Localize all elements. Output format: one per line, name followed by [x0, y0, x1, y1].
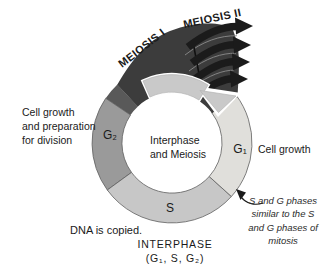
meiosis-arrow-head: [233, 37, 251, 54]
caption-dna-copied: DNA is copied.: [70, 224, 142, 236]
note-text-line4: mitosis: [268, 235, 298, 246]
g1-phase-label: G₁: [233, 142, 246, 156]
center-label-line2: and Meiosis: [150, 148, 206, 160]
g2-phase-label: G₂: [103, 128, 117, 142]
note-text-line3: and G phases of: [248, 222, 319, 233]
caption-interphase-title: INTERPHASE: [137, 238, 212, 250]
center-label-line1: Interphase: [150, 134, 200, 146]
meiosis-arrow-head: [230, 71, 248, 88]
diagram-svg: MEIOSIS I MEIOSIS II G₂ S G₁ Interphase …: [0, 0, 329, 272]
meiosis-arrow-head: [232, 54, 250, 71]
caption-cell-growth-left-line1: Cell growth: [22, 106, 75, 118]
note-pointer-head: [236, 189, 246, 200]
s-phase-label: S: [166, 201, 174, 215]
caption-cell-growth-right: Cell growth: [258, 143, 311, 155]
caption-cell-growth-left-line2: and preparation: [22, 120, 96, 132]
caption-cell-growth-left-line3: for division: [22, 134, 72, 146]
note-text-line1: S and G phases: [249, 195, 317, 206]
caption-interphase-phases: (G₁, S, G₂): [146, 252, 204, 264]
meiosis-arrow-head: [235, 18, 253, 35]
cell-cycle-diagram: MEIOSIS I MEIOSIS II G₂ S G₁ Interphase …: [0, 0, 329, 272]
note-text-line2: similar to the S: [252, 208, 315, 219]
